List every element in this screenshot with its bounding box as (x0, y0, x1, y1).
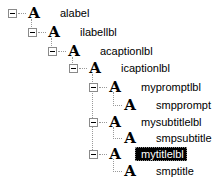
tree-connector (18, 13, 26, 14)
node-label[interactable]: smptitle (153, 164, 197, 178)
tree-connector (99, 87, 107, 88)
node-label[interactable]: mypromptlbl (138, 80, 204, 94)
node-label[interactable]: acaptionlbl (97, 44, 156, 58)
tree-node-icaptionlbl[interactable]: A icaptionlbl (69, 60, 173, 76)
font-a-icon: A (108, 146, 122, 162)
node-label[interactable]: alabel (57, 6, 92, 20)
collapse-icon[interactable] (8, 9, 17, 18)
tree-node-ilabellbl[interactable]: A ilabellbl (28, 24, 120, 40)
collapse-icon[interactable] (28, 28, 37, 37)
font-a-icon: A (27, 5, 41, 21)
tree-node-smpprompt[interactable]: A smpprompt (123, 97, 214, 113)
tree-node-smpsubtitle[interactable]: A smpsubtitle (123, 130, 215, 146)
tree-node-alabel[interactable]: A alabel (8, 5, 92, 21)
font-a-icon: A (47, 24, 61, 40)
tree-connector (58, 51, 66, 52)
font-a-icon: A (67, 43, 81, 59)
tree-node-smptitle[interactable]: A smptitle (123, 163, 197, 179)
node-label[interactable]: mysubtitlelbl (138, 115, 205, 129)
font-a-icon: A (123, 163, 137, 179)
node-label-selected[interactable]: mytitlelbl (135, 147, 187, 161)
collapse-icon[interactable] (89, 83, 98, 92)
collapse-icon[interactable] (89, 118, 98, 127)
tree-node-mypromptlbl[interactable]: A mypromptlbl (89, 79, 204, 95)
node-label[interactable]: icaptionlbl (118, 61, 173, 75)
font-a-icon: A (108, 79, 122, 95)
collapse-icon[interactable] (69, 64, 78, 73)
font-a-icon: A (123, 130, 137, 146)
collapse-icon[interactable] (48, 47, 57, 56)
tree-connector (38, 32, 46, 33)
font-a-icon: A (88, 60, 102, 76)
tree-connector (79, 68, 87, 69)
font-a-icon: A (108, 114, 122, 130)
node-label[interactable]: smpprompt (153, 98, 214, 112)
tree-node-mytitlelbl[interactable]: A mytitlelbl (89, 146, 187, 162)
tree-view[interactable]: A alabel A ilabellbl A acaptionlbl A ica… (0, 0, 224, 184)
font-a-icon: A (123, 97, 137, 113)
node-label[interactable]: ilabellbl (77, 25, 120, 39)
tree-connector (99, 154, 107, 155)
tree-node-mysubtitlelbl[interactable]: A mysubtitlelbl (89, 114, 205, 130)
tree-node-acaptionlbl[interactable]: A acaptionlbl (48, 43, 156, 59)
tree-connector (99, 122, 107, 123)
node-label[interactable]: smpsubtitle (153, 131, 215, 145)
collapse-icon[interactable] (89, 150, 98, 159)
